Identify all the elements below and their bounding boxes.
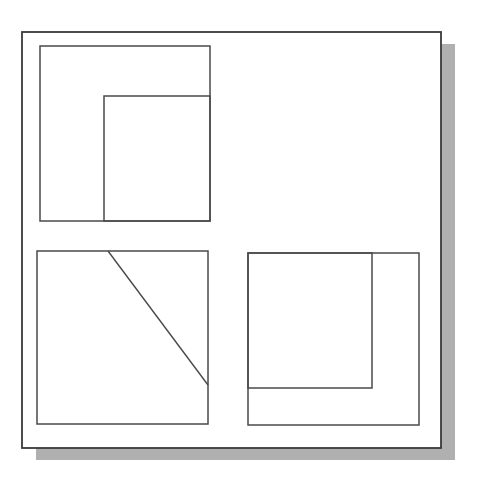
outer-frame (22, 32, 441, 448)
line-diagram (0, 0, 477, 487)
diagram-canvas (0, 0, 477, 487)
